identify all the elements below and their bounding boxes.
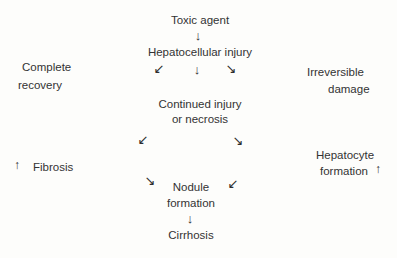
hepatocyte-formation-line2: formation (320, 165, 368, 178)
nodule-formation-line2: formation (167, 197, 215, 210)
irreversible-damage-line1: Irreversible (307, 66, 364, 79)
continued-injury-line1: Continued injury (158, 98, 241, 111)
node-cirrhosis: Cirrhosis (168, 229, 213, 242)
arrow-nodule-to-cirrhosis-icon: ↓ (187, 212, 194, 225)
node-hepatocellular-injury: Hepatocellular injury (148, 46, 252, 59)
arrow-toxic-to-hepatocellular-icon: ↓ (195, 29, 202, 42)
liver-injury-flow-diagram: Toxic agent ↓ Hepatocellular injury ↙ ↓ … (0, 0, 397, 258)
complete-recovery-line2: recovery (18, 79, 62, 92)
fibrosis-label: Fibrosis (33, 161, 73, 174)
arrow-hepatocellular-to-continued-icon: ↓ (194, 63, 201, 76)
node-toxic-agent: Toxic agent (171, 14, 229, 27)
irreversible-damage-line2: damage (328, 83, 370, 96)
hepatocyte-formation-line1: Hepatocyte (316, 149, 374, 162)
fibrosis-increase-arrow-icon: ↑ (14, 159, 20, 172)
hepatocyte-increase-arrow-icon: ↑ (375, 163, 381, 176)
arrow-continued-to-hepatocyte-icon: ↘ (233, 134, 244, 147)
arrow-fibrosis-to-nodule-icon: ↘ (145, 174, 156, 187)
arrow-hepatocyte-to-nodule-icon: ↙ (228, 177, 239, 190)
arrow-continued-to-fibrosis-icon: ↙ (138, 133, 149, 146)
complete-recovery-line1: Complete (22, 61, 71, 74)
nodule-formation-line1: Nodule (173, 181, 209, 194)
arrow-hepatocellular-to-recovery-icon: ↙ (154, 62, 165, 75)
continued-injury-line2: or necrosis (172, 113, 228, 126)
arrow-hepatocellular-to-damage-icon: ↘ (226, 62, 237, 75)
